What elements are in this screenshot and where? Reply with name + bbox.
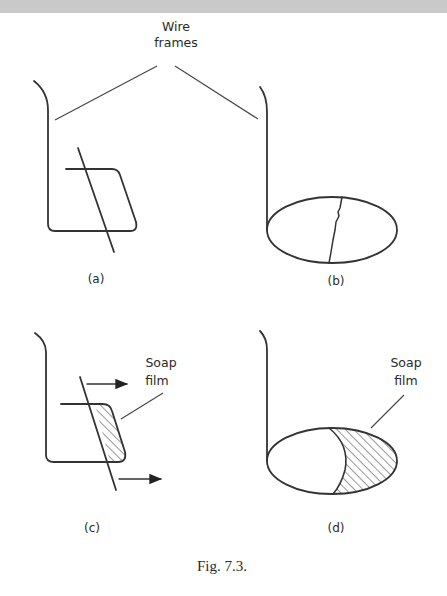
leader-line-to-a xyxy=(55,66,157,120)
panel-label-d: (d) xyxy=(328,521,345,535)
soap-film-label-d-line1: Soap xyxy=(390,355,421,370)
handle-d xyxy=(260,331,267,461)
leader-line-to-b xyxy=(175,66,258,119)
soap-film-label-c-line2: film xyxy=(145,373,169,388)
elliptical-loop-b xyxy=(267,197,397,263)
panel-d: Soap film (d) xyxy=(260,331,422,535)
soap-film-hatch-d xyxy=(330,428,420,494)
wire-frames-label-line1: Wire xyxy=(162,19,190,34)
loose-thread-b xyxy=(329,197,342,263)
soap-film-diagram: Wire frames (a) (b) Soap film (c) Soap f… xyxy=(0,0,447,596)
soap-film-leader-d xyxy=(371,395,404,428)
soap-film-leader-c xyxy=(121,393,163,419)
figure-caption: Fig. 7.3. xyxy=(197,558,247,574)
panel-b: (b) xyxy=(260,87,397,288)
wire-frames-callout: Wire frames xyxy=(55,19,258,120)
handle-b xyxy=(260,87,267,230)
panel-label-b: (b) xyxy=(328,274,345,288)
panel-c: Soap film (c) xyxy=(35,333,177,535)
soap-film-label-c-line1: Soap xyxy=(145,355,176,370)
panel-label-c: (c) xyxy=(84,521,100,535)
soap-film-label-d-line2: film xyxy=(394,373,418,388)
panel-a: (a) xyxy=(34,81,136,286)
panel-label-a: (a) xyxy=(88,272,105,286)
soap-film-hatch-c xyxy=(95,404,125,462)
sliding-wire-a xyxy=(78,148,114,252)
wire-frames-label-line2: frames xyxy=(154,35,198,50)
